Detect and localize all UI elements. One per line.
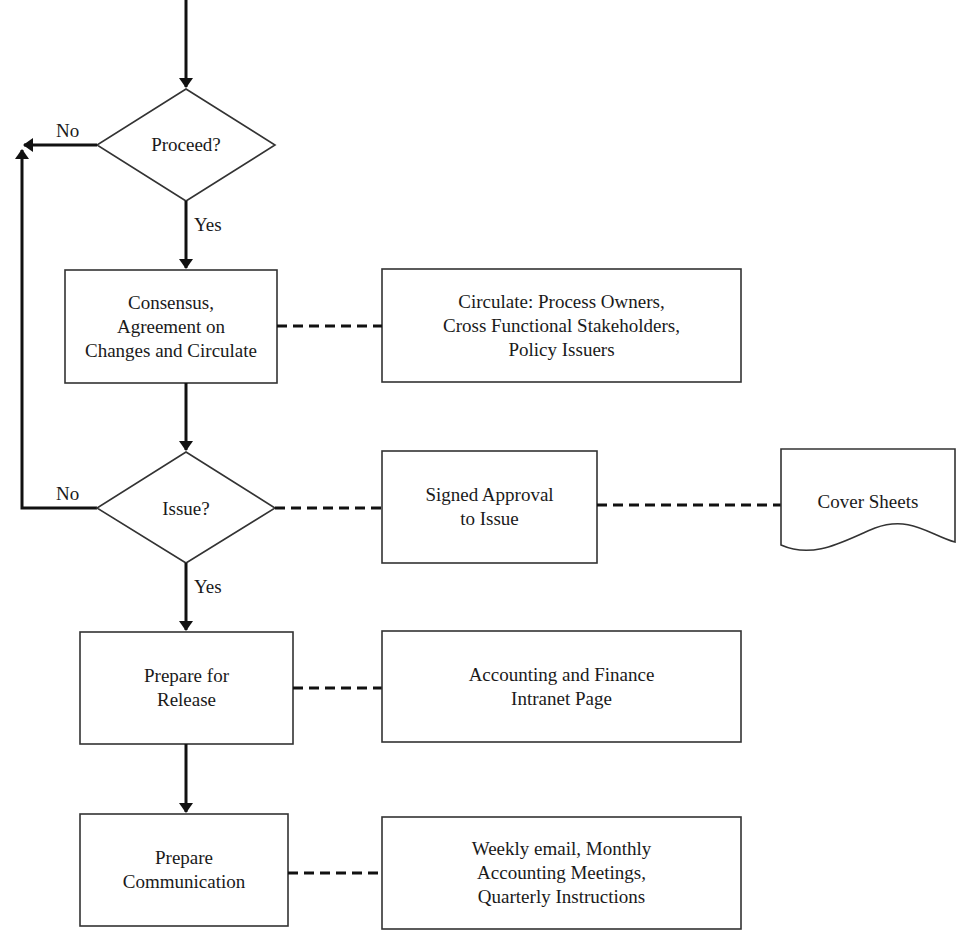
proceed-label: Proceed? [97,132,275,158]
circulate-label: Circulate: Process Owners, Cross Functio… [382,269,741,382]
issue-yes-label: Yes [194,576,222,598]
prepare-communication-label: Prepare Communication [80,814,288,926]
proceed-no-label: No [56,120,79,142]
proceed-yes-label: Yes [194,214,222,236]
cover-sheets-label: Cover Sheets [781,449,955,555]
accounting-page-label: Accounting and Finance Intranet Page [382,631,741,742]
consensus-label: Consensus, Agreement on Changes and Circ… [65,270,277,383]
issue-label: Issue? [97,496,275,522]
issue-no-label: No [56,483,79,505]
weekly-email-label: Weekly email, Monthly Accounting Meeting… [382,817,741,929]
prepare-release-label: Prepare for Release [80,632,293,744]
signed-approval-label: Signed Approval to Issue [382,451,597,563]
